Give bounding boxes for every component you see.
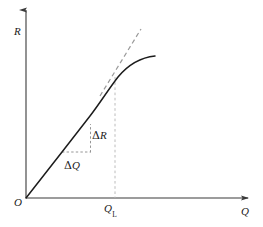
x-axis-label: Q	[241, 206, 249, 217]
delta-r-variable: R	[100, 129, 107, 141]
x-tick-label-q-l: QL	[104, 203, 117, 217]
delta-q-variable: Q	[72, 159, 80, 171]
response-curve-figure: R O Q QL ΔR ΔQ	[0, 0, 263, 227]
x-tick-label-subscript: L	[112, 210, 117, 219]
x-tick-label-base: Q	[104, 202, 112, 214]
response-curve-path	[26, 56, 155, 198]
delta-q-label: ΔQ	[64, 160, 80, 171]
origin-label: O	[14, 197, 22, 208]
delta-glyph-q: Δ	[64, 159, 72, 172]
chart-canvas	[0, 0, 263, 227]
y-axis-label: R	[14, 26, 21, 37]
delta-glyph-r: Δ	[92, 129, 100, 142]
delta-r-label: ΔR	[92, 130, 107, 141]
